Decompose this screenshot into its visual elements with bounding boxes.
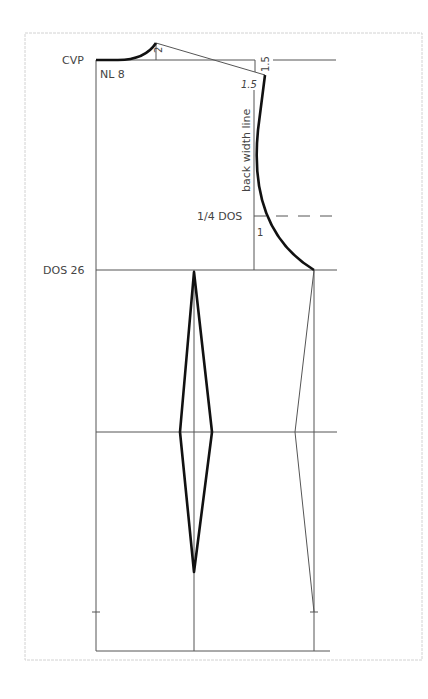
outline-lines <box>96 43 314 572</box>
frame-border <box>25 33 422 660</box>
label-back-width-line: back width line <box>240 108 253 192</box>
pattern-diagram: CVP NL 8 2 1.5 1.5 back width line 1/4 D… <box>0 0 428 699</box>
label-shoulder-drop: 1.5 <box>260 56 271 72</box>
pattern-canvas: CVP NL 8 2 1.5 1.5 back width line 1/4 D… <box>0 0 428 699</box>
label-shoulder-rise: 2 <box>153 47 164 53</box>
label-dos: DOS 26 <box>43 264 85 277</box>
label-quarter-dos: 1/4 DOS <box>197 210 242 223</box>
armhole-curve <box>257 75 314 270</box>
label-armhole-offset: 1 <box>257 227 263 238</box>
side-seam <box>295 270 314 612</box>
label-neck-line: NL 8 <box>100 68 125 81</box>
construction-lines <box>92 43 337 651</box>
label-shoulder-ext: 1.5 <box>241 79 257 90</box>
waist-dart <box>180 272 212 572</box>
neckline-curve <box>96 43 156 60</box>
shoulder-line <box>156 43 265 75</box>
label-cvp: CVP <box>62 54 84 67</box>
